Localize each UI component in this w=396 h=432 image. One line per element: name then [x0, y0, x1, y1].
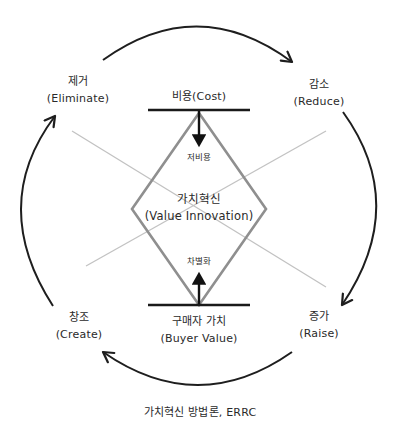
label-buyer-value-en: (Buyer Value) [160, 330, 237, 347]
label-eliminate-en: (Eliminate) [47, 90, 109, 107]
label-differentiation: 차별화 [187, 253, 212, 270]
label-value-innovation: 가치혁신 (Value Innovation) [145, 191, 254, 225]
arc-arrow-create-to-eliminate [21, 116, 55, 306]
label-reduce-kr: 감소 [294, 76, 345, 93]
label-buyer-value-kr: 구매자 가치 [160, 313, 237, 330]
label-create: 창조 (Create) [56, 309, 103, 343]
label-cost-text: 비용(Cost) [172, 88, 227, 105]
label-differentiation-text: 차별화 [187, 253, 212, 270]
label-low-cost-text: 저비용 [187, 149, 212, 166]
label-reduce: 감소 (Reduce) [294, 76, 345, 110]
arc-arrow-raise-to-create [103, 352, 292, 385]
arc-arrow-reduce-to-raise [342, 112, 376, 305]
label-raise-kr: 증가 [299, 308, 339, 325]
diagram-caption: 가치혁신 방법론, ERRC [144, 404, 257, 421]
label-value-innovation-kr: 가치혁신 [145, 191, 254, 208]
label-raise-en: (Raise) [299, 325, 339, 342]
label-reduce-en: (Reduce) [294, 93, 345, 110]
label-create-kr: 창조 [56, 309, 103, 326]
label-eliminate: 제거 (Eliminate) [47, 73, 109, 107]
arc-arrow-eliminate-to-reduce [103, 26, 292, 62]
diagram-caption-text: 가치혁신 방법론, ERRC [144, 404, 257, 421]
label-eliminate-kr: 제거 [47, 73, 109, 90]
label-raise: 증가 (Raise) [299, 308, 339, 342]
label-buyer-value: 구매자 가치 (Buyer Value) [160, 313, 237, 347]
label-create-en: (Create) [56, 326, 103, 343]
label-low-cost: 저비용 [187, 149, 212, 166]
label-cost: 비용(Cost) [172, 88, 227, 105]
label-value-innovation-en: (Value Innovation) [145, 208, 254, 225]
